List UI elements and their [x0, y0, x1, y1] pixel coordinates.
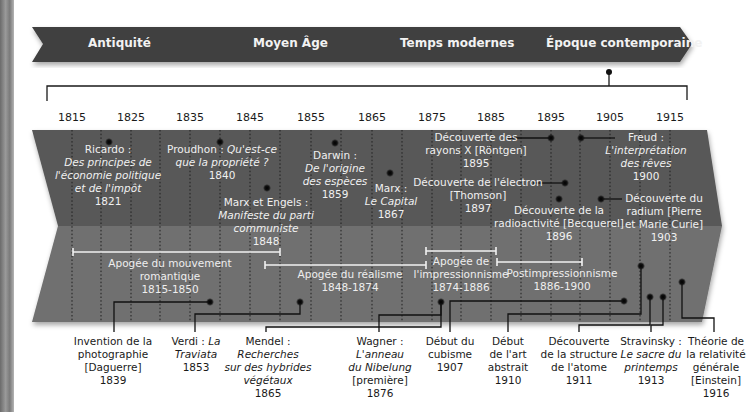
year-tick-label: 1815	[58, 111, 86, 124]
year-tick-label: 1865	[358, 111, 386, 124]
year-tick-label: 1895	[537, 111, 565, 124]
event-art-abstrait: Début de l'art abstrait 1910	[488, 335, 528, 387]
era-label: Temps modernes	[400, 36, 514, 50]
event-rontgen: Découverte des rayons X [Röntgen] 1895	[425, 131, 526, 170]
event-mendel: Mendel : Recherches sur des hybrides vég…	[224, 335, 311, 400]
event-becquerel: Découverte de la radioactivité [Becquere…	[494, 204, 624, 243]
event-freud: Freud : L'interprétation des rêves 1900	[605, 131, 686, 183]
year-tick-label: 1835	[176, 111, 204, 124]
era-label: Moyen Âge	[253, 36, 328, 50]
event-daguerre: Invention de la photographie [Daguerre] …	[74, 335, 152, 387]
event-einstein: Théorie de la relativité générale [Einst…	[686, 335, 745, 400]
year-tick-label: 1855	[297, 111, 325, 124]
event-marx-capital: Marx : Le Capital 1867	[365, 182, 417, 221]
period-romantisme: Apogée du mouvement romantique 1815-1850	[108, 257, 231, 296]
year-tick-label: 1915	[656, 111, 684, 124]
period-impressionnisme: Apogée de l'impressionnisme 1874-1886	[414, 255, 509, 294]
year-tick-label: 1845	[236, 111, 264, 124]
event-stravinsky: Stravinsky : Le sacre du printemps 1913	[620, 335, 682, 387]
era-label: Époque contemporaine	[546, 36, 702, 50]
event-cubisme: Début du cubisme 1907	[426, 335, 475, 374]
event-darwin: Darwin : De l'origine des espèces 1859	[303, 149, 368, 201]
event-marx-engels: Marx et Engels : Manifeste du parti comm…	[218, 196, 314, 248]
era-label: Antiquité	[88, 36, 151, 50]
event-verdi: Verdi : La Traviata 1853	[171, 335, 220, 374]
year-tick-label: 1885	[477, 111, 505, 124]
event-curie: Découverte du radium [Pierre et Marie Cu…	[625, 192, 703, 244]
event-ricardo: Ricardo : Des principes de l'économie po…	[55, 143, 161, 208]
event-proudhon: Proudhon : Qu'est-ce que la propriété ? …	[167, 143, 277, 182]
period-realisme: Apogée du réalisme 1848-1874	[298, 268, 403, 294]
period-postimpressionnisme: Postimpressionnisme 1886-1900	[507, 267, 618, 293]
year-tick-label: 1825	[117, 111, 145, 124]
event-wagner: Wagner : L'anneau du Nibelung [première]…	[348, 335, 411, 400]
zoom-bracket	[47, 72, 687, 101]
event-atome: Découverte de la structure de l'atome 19…	[541, 335, 618, 387]
year-tick-label: 1875	[418, 111, 446, 124]
year-tick-label: 1905	[596, 111, 624, 124]
